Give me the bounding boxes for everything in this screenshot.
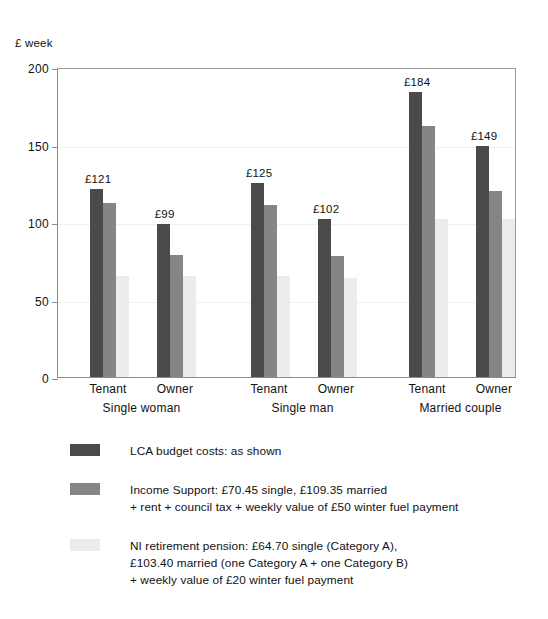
bar[interactable]: £102	[318, 219, 331, 377]
legend-label: NI retirement pension: £64.70 single (Ca…	[130, 538, 408, 589]
y-axis-tick-label: 200	[28, 62, 49, 76]
bar[interactable]: £121	[90, 189, 103, 377]
y-axis-tick-label: 150	[28, 140, 49, 154]
bar[interactable]	[183, 276, 196, 377]
y-axis-tick-label: 50	[35, 295, 49, 309]
x-axis-group-label: Single woman	[103, 401, 181, 415]
bar[interactable]	[331, 256, 344, 377]
plot-area: 050100150200 £121£99£125£102£184£149	[57, 68, 516, 378]
legend-label-line: + rent + council tax + weekly value of £…	[130, 499, 459, 516]
y-axis-unit-label: £ week	[15, 37, 53, 49]
bar[interactable]: £99	[157, 224, 170, 377]
y-axis-tick-label: 0	[42, 372, 49, 386]
legend-label-line: NI retirement pension: £64.70 single (Ca…	[130, 538, 408, 555]
legend-entry[interactable]: LCA budget costs: as shown	[70, 443, 510, 460]
bar-value-label: £121	[85, 173, 111, 185]
bar[interactable]	[170, 255, 183, 377]
bar[interactable]	[435, 219, 448, 377]
legend-label: LCA budget costs: as shown	[130, 443, 281, 460]
bar[interactable]	[344, 278, 357, 377]
y-axis-tick-label: 100	[28, 217, 49, 231]
x-axis-group-label: Married couple	[419, 401, 501, 415]
bar[interactable]: £184	[409, 92, 422, 377]
x-axis-group-label: Single man	[271, 401, 333, 415]
bar[interactable]: £125	[251, 183, 264, 377]
bar[interactable]	[489, 191, 502, 377]
legend-label-line: £103.40 married (one Category A + one Ca…	[130, 555, 408, 572]
bar[interactable]	[502, 219, 515, 377]
bar-value-label: £102	[313, 203, 339, 215]
x-axis-tick-label: Tenant	[89, 382, 126, 396]
x-axis-tick-label: Tenant	[408, 382, 445, 396]
legend-label: Income Support: £70.45 single, £109.35 m…	[130, 482, 459, 516]
legend-swatch	[70, 483, 100, 495]
x-axis-tick-label: Owner	[157, 382, 193, 396]
bar[interactable]	[103, 203, 116, 377]
legend-swatch	[70, 539, 100, 551]
legend-entry[interactable]: NI retirement pension: £64.70 single (Ca…	[70, 538, 510, 589]
x-axis-tick-label: Owner	[476, 382, 512, 396]
bar-cluster: £125	[251, 69, 290, 377]
bar[interactable]	[422, 126, 435, 377]
bar-value-label: £149	[471, 130, 497, 142]
bar-cluster: £121	[90, 69, 129, 377]
bar-value-label: £99	[155, 208, 175, 220]
bar-cluster: £149	[476, 69, 515, 377]
chart-legend: LCA budget costs: as shownIncome Support…	[70, 443, 510, 611]
legend-label-line: Income Support: £70.45 single, £109.35 m…	[130, 482, 459, 499]
bar-value-label: £125	[246, 167, 272, 179]
legend-label-line: + weekly value of £20 winter fuel paymen…	[130, 572, 408, 589]
legend-swatch	[70, 444, 100, 456]
chart-figure: £ week 050100150200 £121£99£125£102£184£…	[0, 0, 548, 619]
x-axis: TenantOwnerTenantOwnerTenantOwnerSingle …	[57, 380, 516, 428]
bar-cluster: £99	[157, 69, 196, 377]
x-axis-tick-label: Owner	[318, 382, 354, 396]
bar[interactable]	[116, 276, 129, 377]
legend-entry[interactable]: Income Support: £70.45 single, £109.35 m…	[70, 482, 510, 516]
x-axis-tick-label: Tenant	[250, 382, 287, 396]
bars-layer: £121£99£125£102£184£149	[58, 69, 515, 377]
bar[interactable]	[277, 276, 290, 377]
bar-cluster: £184	[409, 69, 448, 377]
legend-label-line: LCA budget costs: as shown	[130, 443, 281, 460]
bar[interactable]: £149	[476, 146, 489, 377]
bar-cluster: £102	[318, 69, 357, 377]
bar[interactable]	[264, 205, 277, 377]
bar-value-label: £184	[404, 76, 430, 88]
